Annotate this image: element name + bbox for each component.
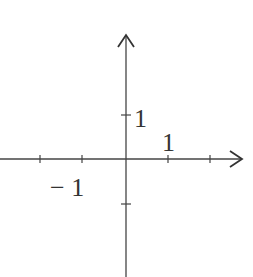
x-neg-unit-label: − 1 bbox=[50, 173, 84, 202]
y-unit-label: 1 bbox=[134, 104, 147, 133]
coordinate-plane: 1 1 − 1 bbox=[0, 0, 253, 277]
x-unit-label: 1 bbox=[162, 128, 175, 157]
